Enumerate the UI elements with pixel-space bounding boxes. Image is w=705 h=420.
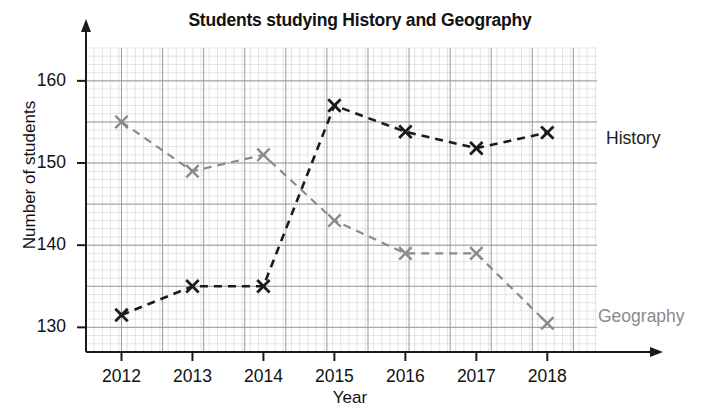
x-axis-arrow [650, 347, 663, 357]
x-tick-label-2016: 2016 [375, 366, 435, 387]
y-tick-label-160: 160 [20, 70, 66, 91]
series-line-geography [122, 122, 548, 323]
series-line-history [122, 106, 548, 316]
y-tick-label-150: 150 [20, 152, 66, 173]
series-label-history: History [606, 128, 660, 149]
series-history [115, 99, 553, 321]
x-tick-label-2012: 2012 [91, 366, 151, 387]
line-chart-plot [0, 0, 705, 420]
chart-page: Students studying History and Geography … [0, 0, 705, 420]
data-point-marker [541, 126, 553, 138]
x-tick-label-2017: 2017 [446, 366, 506, 387]
series-geography [115, 116, 553, 330]
x-tick-label-2014: 2014 [233, 366, 293, 387]
y-tick-label-130: 130 [20, 316, 66, 337]
x-tick-label-2013: 2013 [162, 366, 222, 387]
major-gridlines [86, 48, 597, 352]
axes [77, 19, 663, 361]
series-label-geography: Geography [598, 306, 685, 327]
x-tick-label-2018: 2018 [517, 366, 577, 387]
y-tick-label-140: 140 [20, 234, 66, 255]
x-tick-label-2015: 2015 [304, 366, 364, 387]
y-axis-arrow [81, 19, 91, 32]
